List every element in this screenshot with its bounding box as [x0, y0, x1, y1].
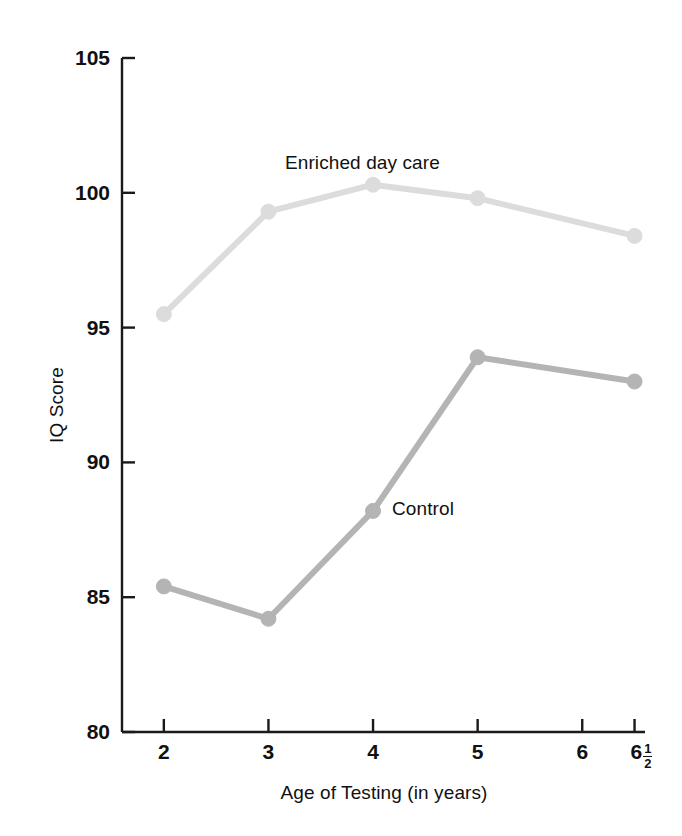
- data-point-marker: [261, 611, 276, 626]
- data-point-marker: [366, 503, 381, 518]
- data-point-marker: [366, 177, 381, 192]
- plot-area: [0, 0, 682, 836]
- data-point-marker: [470, 350, 485, 365]
- chart-figure: IQ Score 10510095908580 23456612 Age of …: [0, 0, 682, 836]
- data-point-marker: [261, 204, 276, 219]
- series-label-enriched-day-care: Enriched day care: [285, 152, 440, 174]
- data-point-marker: [627, 228, 642, 243]
- series-line: [164, 185, 635, 314]
- data-point-marker: [156, 307, 171, 322]
- series-enriched-day-care: [156, 177, 642, 321]
- series-line: [164, 357, 635, 619]
- data-point-marker: [470, 191, 485, 206]
- series-control: [156, 350, 642, 627]
- data-point-marker: [627, 374, 642, 389]
- data-point-marker: [156, 579, 171, 594]
- series-label-control: Control: [392, 498, 454, 520]
